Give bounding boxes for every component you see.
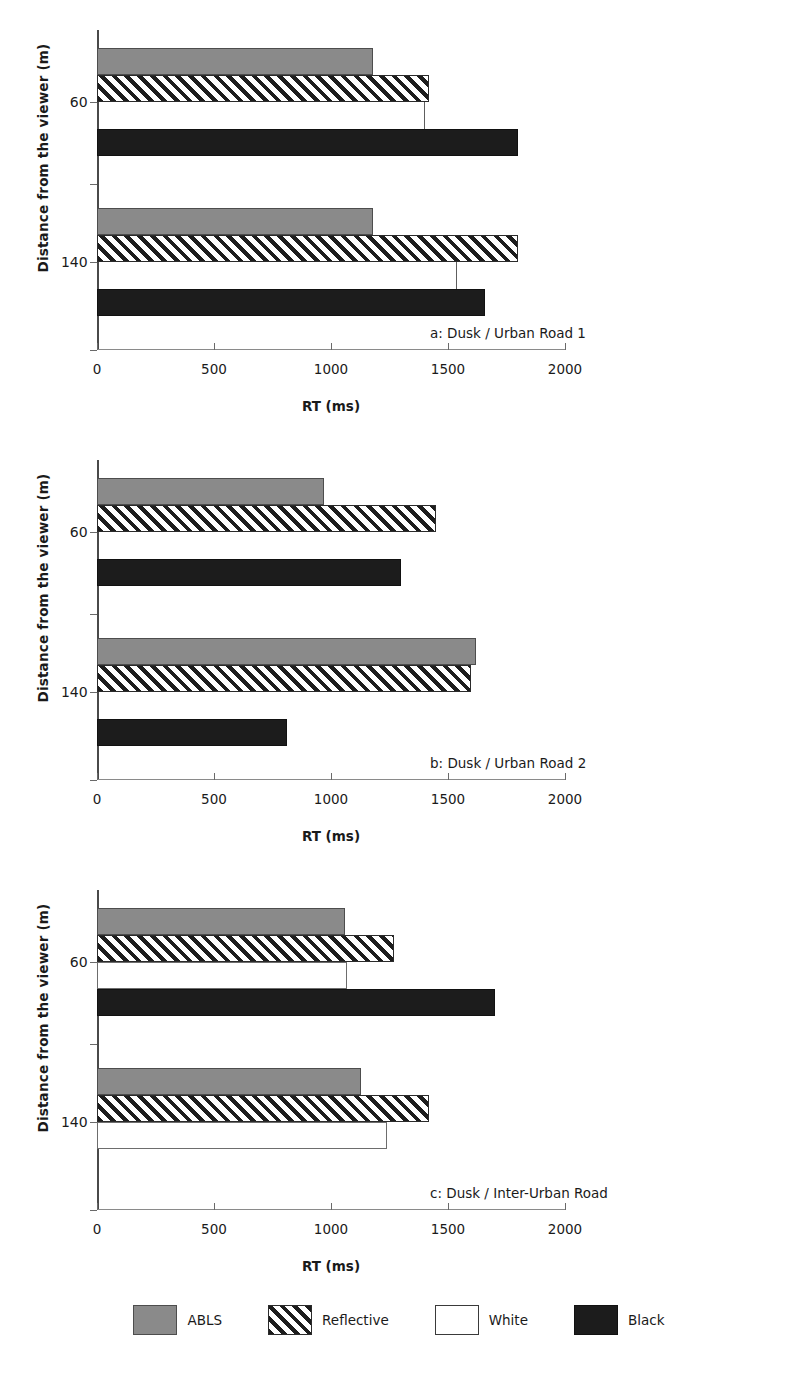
panel-caption-a: a: Dusk / Urban Road 1	[430, 325, 586, 341]
x-tick-500	[214, 1203, 215, 1210]
y-minor-tick-0	[90, 1044, 97, 1045]
panel-c: Distance from the viewer (m) 05001000150…	[0, 860, 798, 1280]
panel-caption-b: b: Dusk / Urban Road 2	[430, 755, 586, 771]
legend-label-white: White	[489, 1312, 528, 1328]
figure-bar-charts: Distance from the viewer (m) 05001000150…	[0, 0, 798, 1381]
x-tick-0	[97, 773, 98, 780]
plot-area-c: 050010001500200060140	[97, 890, 565, 1210]
y-minor-tick-1	[90, 350, 97, 351]
bar-reflective-60	[97, 505, 436, 532]
x-tick-label-0: 0	[93, 791, 102, 807]
y-tick-140	[90, 692, 97, 693]
x-tick-500	[214, 773, 215, 780]
y-minor-tick-1	[90, 780, 97, 781]
x-tick-label-500: 500	[201, 1221, 227, 1237]
y-tick-label-140: 140	[61, 684, 88, 700]
x-tick-label-1500: 1500	[431, 1221, 465, 1237]
plot-area-a: 050010001500200060140	[97, 30, 565, 350]
plot-area-b: 050010001500200060140	[97, 460, 565, 780]
bar-white-60	[97, 102, 425, 129]
x-tick-label-2000: 2000	[548, 791, 582, 807]
y-tick-60	[90, 102, 97, 103]
bar-abls-60	[97, 908, 345, 935]
x-tick-500	[214, 343, 215, 350]
x-tick-label-2000: 2000	[548, 1221, 582, 1237]
y-axis-title-b: Distance from the viewer (m)	[35, 463, 51, 713]
bar-abls-140	[97, 638, 476, 665]
legend-item-black: Black	[574, 1305, 665, 1335]
x-tick-1500	[448, 773, 449, 780]
legend-item-abls: ABLS	[133, 1305, 222, 1335]
bar-abls-60	[97, 478, 324, 505]
y-tick-label-60: 60	[70, 524, 88, 540]
legend-label-reflective: Reflective	[322, 1312, 389, 1328]
x-tick-label-500: 500	[201, 791, 227, 807]
bar-black-140	[97, 289, 485, 316]
bar-black-60	[97, 989, 495, 1016]
panel-caption-c: c: Dusk / Inter-Urban Road	[430, 1185, 608, 1201]
y-tick-label-140: 140	[61, 1114, 88, 1130]
legend-label-abls: ABLS	[187, 1312, 222, 1328]
bar-white-140	[97, 1122, 387, 1149]
x-tick-1000	[331, 773, 332, 780]
legend-swatch-black-icon	[574, 1305, 618, 1335]
bar-abls-140	[97, 208, 373, 235]
bar-abls-60	[97, 48, 373, 75]
x-tick-label-1500: 1500	[431, 361, 465, 377]
x-tick-2000	[565, 1203, 566, 1210]
y-tick-label-60: 60	[70, 94, 88, 110]
y-minor-tick-0	[90, 184, 97, 185]
x-tick-label-1000: 1000	[314, 361, 348, 377]
panel-a: Distance from the viewer (m) 05001000150…	[0, 0, 798, 420]
bar-white-140	[97, 262, 457, 289]
bar-white-60	[97, 962, 347, 989]
x-tick-label-1000: 1000	[314, 1221, 348, 1237]
bar-reflective-60	[97, 935, 394, 962]
legend-swatch-white-icon	[435, 1305, 479, 1335]
x-tick-1500	[448, 343, 449, 350]
y-tick-60	[90, 532, 97, 533]
y-tick-label-140: 140	[61, 254, 88, 270]
x-tick-2000	[565, 773, 566, 780]
x-tick-0	[97, 1203, 98, 1210]
x-tick-2000	[565, 343, 566, 350]
legend-label-black: Black	[628, 1312, 665, 1328]
y-tick-140	[90, 1122, 97, 1123]
y-tick-60	[90, 962, 97, 963]
bar-reflective-60	[97, 75, 429, 102]
bar-reflective-140	[97, 1095, 429, 1122]
legend-swatch-reflective-icon	[268, 1305, 312, 1335]
bar-reflective-140	[97, 235, 518, 262]
x-tick-label-500: 500	[201, 361, 227, 377]
bar-black-60	[97, 559, 401, 586]
x-tick-1000	[331, 1203, 332, 1210]
x-tick-1000	[331, 343, 332, 350]
y-minor-tick-0	[90, 614, 97, 615]
bar-reflective-140	[97, 665, 471, 692]
x-tick-1500	[448, 1203, 449, 1210]
x-tick-label-1500: 1500	[431, 791, 465, 807]
x-tick-label-0: 0	[93, 1221, 102, 1237]
y-minor-tick-1	[90, 1210, 97, 1211]
y-axis-title-c: Distance from the viewer (m)	[35, 893, 51, 1143]
y-tick-140	[90, 262, 97, 263]
y-axis-title-a: Distance from the viewer (m)	[35, 33, 51, 283]
y-tick-label-60: 60	[70, 954, 88, 970]
legend-item-reflective: Reflective	[268, 1305, 389, 1335]
bar-black-60	[97, 129, 518, 156]
bar-abls-140	[97, 1068, 361, 1095]
legend: ABLS Reflective White Black	[0, 1290, 798, 1350]
bar-black-140	[97, 719, 287, 746]
x-tick-label-0: 0	[93, 361, 102, 377]
x-tick-label-1000: 1000	[314, 791, 348, 807]
x-tick-0	[97, 343, 98, 350]
legend-swatch-abls-icon	[133, 1305, 177, 1335]
panel-b: Distance from the viewer (m) 05001000150…	[0, 430, 798, 850]
x-tick-label-2000: 2000	[548, 361, 582, 377]
legend-item-white: White	[435, 1305, 528, 1335]
